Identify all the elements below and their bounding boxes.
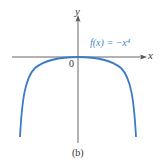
graph [0,0,160,167]
x-axis-label: x [148,49,153,61]
caption: (b) [72,147,84,158]
origin-label: 0 [69,58,74,69]
y-axis-label: y [75,5,80,17]
function-label: f(x) = −x⁴ [90,37,130,48]
